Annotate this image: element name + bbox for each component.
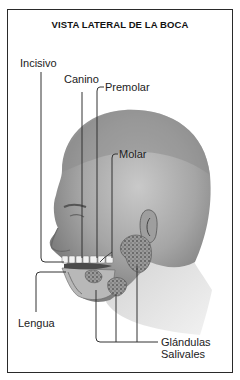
label-incisivo: Incisivo (20, 57, 57, 69)
label-lengua: Lengua (18, 317, 55, 329)
label-canino: Canino (64, 73, 99, 85)
label-premolar: Premolar (105, 81, 150, 93)
label-glandulas: Glándulas (161, 336, 211, 348)
label-salivales: Salivales (161, 348, 205, 360)
label-molar: Molar (119, 148, 147, 160)
sublingual-gland (85, 270, 102, 283)
